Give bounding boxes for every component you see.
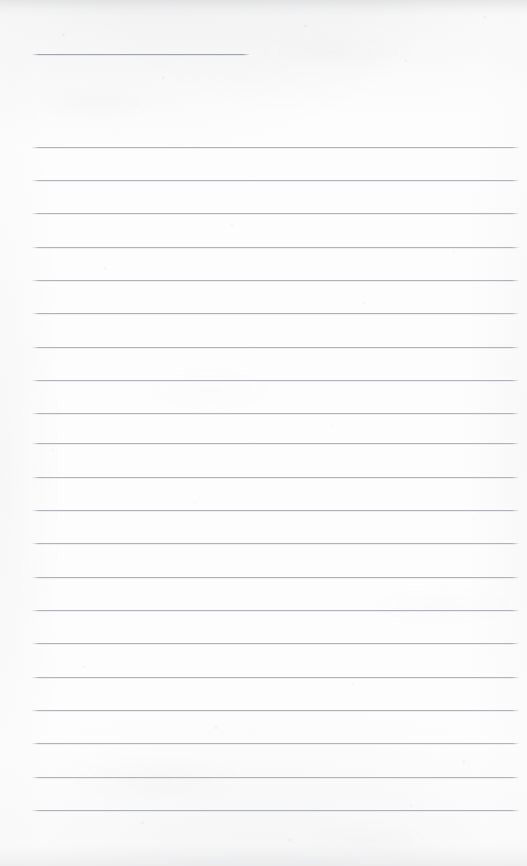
- scan-noise-overlay: [0, 0, 527, 866]
- title-line: [31, 54, 251, 56]
- ruled-line-17: [31, 677, 520, 679]
- ruled-line-5: [31, 280, 520, 282]
- ruled-line-2: [31, 180, 520, 182]
- scan-top-edge-shadow: [0, 0, 527, 16]
- ruled-line-12: [31, 510, 520, 512]
- ruled-line-16: [31, 643, 520, 645]
- ruled-line-18: [31, 710, 520, 712]
- ruled-line-11: [31, 477, 520, 479]
- ruled-line-9: [31, 413, 520, 415]
- ruled-line-8: [31, 380, 520, 382]
- scanned-notepad-page: [0, 0, 527, 866]
- ruled-line-4: [31, 247, 520, 249]
- ruled-line-6: [31, 313, 520, 315]
- ruled-line-15: [31, 610, 520, 612]
- scan-bottom-edge-shadow: [0, 846, 527, 866]
- paper-mottling-overlay: [0, 0, 527, 866]
- ruled-line-21: [31, 810, 520, 812]
- ruled-line-10: [31, 443, 520, 445]
- ruled-line-13: [31, 543, 520, 545]
- ruled-line-3: [31, 213, 520, 215]
- ruled-line-14: [31, 577, 520, 579]
- ruled-line-20: [31, 777, 520, 779]
- ruled-line-7: [31, 347, 520, 349]
- ruled-line-19: [31, 743, 520, 745]
- ruled-line-1: [31, 147, 520, 149]
